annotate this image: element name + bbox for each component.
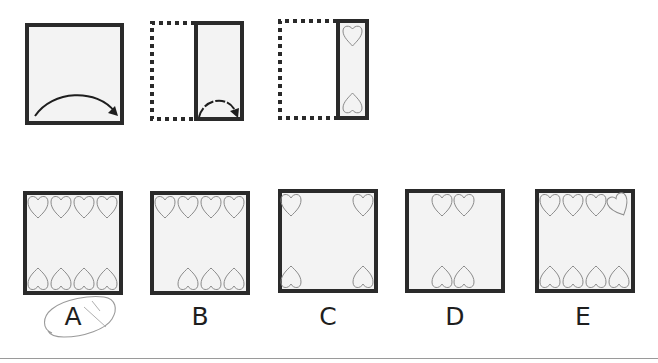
option-c-label[interactable]: C [298,303,358,331]
option-b-figure[interactable] [148,189,252,297]
option-d-label[interactable]: D [425,303,485,331]
fold-step-1 [22,20,128,128]
pencil-answer-mark [40,293,120,339]
option-c-figure[interactable] [276,187,380,295]
option-d-figure[interactable] [403,187,507,295]
bottom-divider [0,358,658,359]
option-e-label[interactable]: E [553,303,613,331]
fold-step-3 [274,15,374,125]
option-e-figure[interactable] [533,187,637,295]
fold-step-2 [146,17,248,125]
option-a-figure[interactable] [21,189,125,297]
option-b-label[interactable]: B [170,303,230,331]
